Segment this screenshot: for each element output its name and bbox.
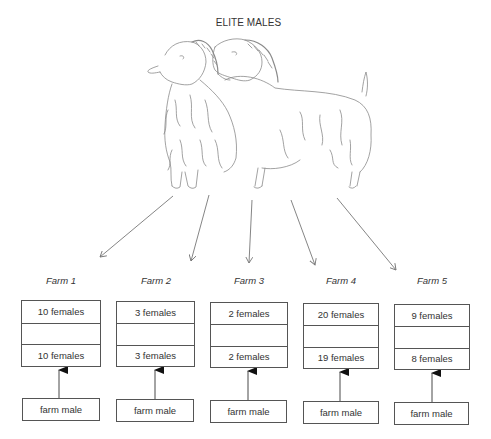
farm-1-label: Farm 1 xyxy=(21,275,101,286)
arrow-to-farm-2 xyxy=(191,195,209,261)
farm-1-male: farm male xyxy=(22,398,100,421)
farm-5-bottom-females: 8 females xyxy=(395,348,469,369)
farm-2-bottom-females: 3 females xyxy=(117,345,194,366)
farm-4-bottom-females: 19 females xyxy=(304,347,378,368)
farm-5-label: Farm 5 xyxy=(392,275,472,286)
farm-4-label: Farm 4 xyxy=(301,275,381,286)
farm-1-bottom-females: 10 females xyxy=(22,344,100,366)
arrow-to-farm-1 xyxy=(100,196,173,257)
farm-1-top-females: 10 females xyxy=(22,301,100,323)
farm-5-male: farm male xyxy=(394,402,469,425)
farm-3-middle-row xyxy=(211,324,287,345)
arrow-to-farm-4 xyxy=(291,200,315,265)
farm-male-arrows xyxy=(59,370,432,402)
farm-3-top-females: 2 females xyxy=(211,303,287,324)
farm-2-label: Farm 2 xyxy=(116,275,196,286)
farm-3-herd: 2 females 2 females xyxy=(210,302,288,368)
farm-4-herd: 20 females 19 females xyxy=(303,303,379,369)
farm-2-top-females: 3 females xyxy=(117,302,194,323)
farm-1-herd: 10 females 10 females xyxy=(21,300,101,367)
farm-2-herd: 3 females 3 females xyxy=(116,301,195,367)
farm-5-top-females: 9 females xyxy=(395,305,469,326)
farm-3-label: Farm 3 xyxy=(209,275,289,286)
farm-4-middle-row xyxy=(304,325,378,346)
farm-2-male: farm male xyxy=(116,399,194,422)
farm-3-male: farm male xyxy=(210,400,287,423)
farm-3-bottom-females: 2 females xyxy=(211,346,287,367)
arrow-to-farm-5 xyxy=(337,198,396,270)
farm-2-middle-row xyxy=(117,323,194,344)
distribution-arrows xyxy=(100,195,396,270)
diagram-graphics xyxy=(0,0,491,439)
farm-5-middle-row xyxy=(395,326,469,347)
goat-illustration-icon xyxy=(148,39,371,188)
farm-1-middle-row xyxy=(22,323,100,345)
arrow-to-farm-3 xyxy=(249,200,252,263)
farm-4-male: farm male xyxy=(303,401,379,424)
farm-4-top-females: 20 females xyxy=(304,304,378,325)
farm-5-herd: 9 females 8 females xyxy=(394,304,470,370)
